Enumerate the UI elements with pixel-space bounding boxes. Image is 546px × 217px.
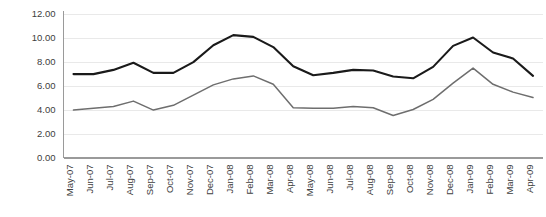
x-tick-label: Jul-07 <box>104 165 115 191</box>
x-tick-label: Feb-08 <box>244 164 255 194</box>
data-series-group <box>73 35 533 115</box>
x-tick-label: Jun-08 <box>324 165 335 194</box>
chart-canvas: 0.002.004.006.008.0010.0012.00 May-07Jun… <box>0 0 546 217</box>
x-tick-label: Apr-09 <box>524 164 535 193</box>
x-tick-label: Jul-08 <box>344 165 355 191</box>
y-tick-label: 10.00 <box>32 32 56 43</box>
x-tick-label: Sep-08 <box>384 165 395 196</box>
x-tick-label: Dec-08 <box>444 164 455 195</box>
x-tick-label: Sep-07 <box>144 165 155 196</box>
x-tick-label: Feb-09 <box>484 164 495 194</box>
x-tick-label: Dec-07 <box>204 164 215 195</box>
x-tick-label: Nov-07 <box>184 164 195 195</box>
x-tick-label: Oct-07 <box>164 165 175 194</box>
y-axis-tick-labels: 0.002.004.006.008.0010.0012.00 <box>32 8 56 163</box>
x-tick-label: Apr-08 <box>284 164 295 193</box>
axis-lines <box>64 11 544 159</box>
x-tick-label: Aug-08 <box>364 165 375 196</box>
x-axis-tick-labels: May-07Jun-07Jul-07Aug-07Sep-07Oct-07Nov-… <box>64 164 535 196</box>
x-tick-label: Jan-08 <box>224 164 235 193</box>
x-tick-label: Oct-08 <box>404 165 415 194</box>
x-tick-label: Mar-09 <box>504 164 515 194</box>
x-tick-label: May-07 <box>64 165 75 197</box>
gridlines <box>64 14 544 158</box>
y-tick-label: 2.00 <box>37 128 56 139</box>
x-tick-label: Nov-08 <box>424 164 435 195</box>
x-tick-label: Mar-08 <box>264 164 275 194</box>
y-tick-label: 12.00 <box>32 8 56 19</box>
y-tick-label: 0.00 <box>37 152 56 163</box>
line-chart: 0.002.004.006.008.0010.0012.00 May-07Jun… <box>0 0 546 217</box>
x-tick-label: Aug-07 <box>124 165 135 196</box>
series-line-series-upper <box>73 35 533 78</box>
x-tick-label: Jan-09 <box>464 164 475 193</box>
y-tick-label: 4.00 <box>37 104 56 115</box>
y-tick-label: 6.00 <box>37 80 56 91</box>
x-tick-label: Jun-07 <box>84 165 95 194</box>
series-line-series-lower <box>73 68 533 115</box>
x-tick-label: May-08 <box>304 165 315 197</box>
y-tick-label: 8.00 <box>37 56 56 67</box>
